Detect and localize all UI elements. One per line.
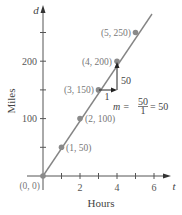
y-tick-label-100: 100 [22,113,37,124]
distance-time-chart: 200 100 2 4 6 d t Miles Hours (0, 0) (1,… [0,0,182,215]
x-axis-title: Hours [88,197,115,209]
x-tick-label-4: 4 [115,182,120,193]
point-label: (0, 0) [19,181,40,192]
data-point [59,145,65,151]
y-axis-title: Miles [5,88,17,113]
data-point [77,116,83,122]
run-label: 1 [105,91,110,102]
data-point [40,173,46,179]
point-label: (3, 150) [64,85,94,96]
y-axis-variable: d [33,4,39,16]
data-point [133,30,139,36]
rise-label: 50 [121,75,131,86]
slope-denominator: 1 [141,105,146,116]
point-label: (4, 200) [82,57,112,68]
x-tick-label-6: 6 [152,182,157,193]
slope-result: = 50 [150,101,168,112]
point-label: (1, 50) [66,143,91,154]
x-axis-variable: t [172,180,176,192]
point-label: (5, 250) [101,28,131,39]
y-tick-label-200: 200 [22,56,37,67]
point-label: (2, 100) [85,114,115,125]
slope-formula: m = 50 1 = 50 [113,96,168,117]
x-tick-label-2: 2 [78,182,83,193]
rise-arrow [115,62,120,90]
slope-prefix: m = [113,101,129,112]
data-line [43,14,152,176]
